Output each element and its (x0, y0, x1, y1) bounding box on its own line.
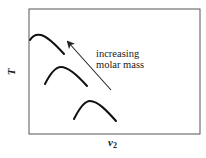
plot-frame (29, 9, 200, 134)
y-axis-label: T (5, 67, 17, 75)
annotation-line2: molar mass (96, 59, 144, 70)
annotation-line1: increasing (96, 48, 140, 59)
molar-mass-diagram: increasing molar mass T v2 (0, 0, 206, 158)
curve-mid-molar-mass (45, 67, 87, 86)
x-axis-label-subscript: 2 (113, 141, 117, 150)
curve-high-molar-mass (30, 35, 64, 54)
curve-low-molar-mass (74, 101, 116, 121)
x-axis-label: v2 (108, 136, 117, 150)
